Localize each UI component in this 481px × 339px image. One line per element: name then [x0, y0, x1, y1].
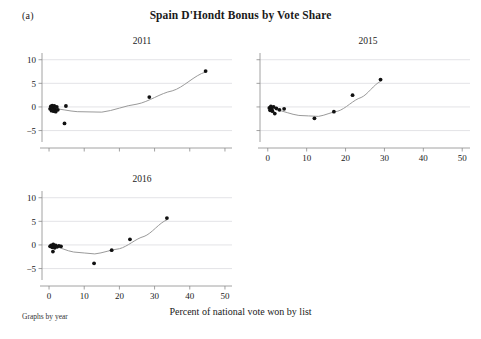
panel-2016: −50510010203040502016 [26, 174, 232, 301]
y-tick-label: 0 [32, 102, 37, 112]
x-tick-label: 50 [458, 153, 468, 163]
panel-2011: −505102011 [26, 36, 232, 152]
panel-title-2011: 2011 [133, 36, 152, 46]
x-tick-label: 30 [150, 291, 160, 301]
data-point [51, 250, 55, 254]
data-point [273, 112, 277, 116]
x-tick-label: 0 [47, 291, 52, 301]
figure-container: (a) Spain D'Hondt Bonus by Vote Share −5… [0, 0, 481, 339]
y-tick-label: −5 [26, 264, 36, 274]
data-point [128, 237, 132, 241]
data-point [56, 108, 60, 112]
y-tick-label: 5 [32, 217, 37, 227]
data-point [332, 110, 336, 114]
y-tick-label: 5 [32, 79, 37, 89]
figure-title: Spain D'Hondt Bonus by Vote Share [0, 9, 481, 21]
data-point [110, 248, 114, 252]
y-tick-label: −5 [26, 126, 36, 136]
x-axis-title: Percent of national vote won by list [0, 306, 481, 317]
data-point [59, 244, 63, 248]
fitted-curve [53, 220, 167, 254]
data-point [165, 216, 169, 220]
x-tick-label: 0 [266, 153, 271, 163]
x-tick-label: 20 [341, 153, 351, 163]
data-point [204, 69, 208, 73]
x-tick-label: 40 [419, 153, 429, 163]
data-point [379, 78, 383, 82]
data-point [278, 108, 282, 112]
x-tick-label: 30 [380, 153, 390, 163]
y-tick-label: 10 [27, 55, 37, 65]
data-point [351, 93, 355, 97]
figure-footnote: Graphs by year [22, 312, 68, 321]
y-tick-label: 10 [27, 193, 37, 203]
data-point [64, 104, 68, 108]
data-point [63, 122, 67, 126]
data-point [313, 116, 317, 120]
panel-title-2016: 2016 [133, 174, 152, 184]
fitted-curve [276, 81, 381, 116]
x-tick-label: 10 [302, 153, 312, 163]
fitted-curve [53, 72, 206, 112]
x-tick-label: 10 [80, 291, 90, 301]
x-tick-label: 20 [115, 291, 125, 301]
plot-area: −505102011010203040502015−50510010203040… [0, 0, 481, 339]
panel-title-2015: 2015 [359, 36, 378, 46]
panel-2015: 010203040502015 [257, 36, 471, 163]
x-tick-label: 40 [185, 291, 195, 301]
data-point [282, 107, 286, 111]
data-point [92, 261, 96, 265]
x-tick-label: 50 [220, 291, 230, 301]
data-point [147, 95, 151, 99]
y-tick-label: 0 [32, 240, 37, 250]
